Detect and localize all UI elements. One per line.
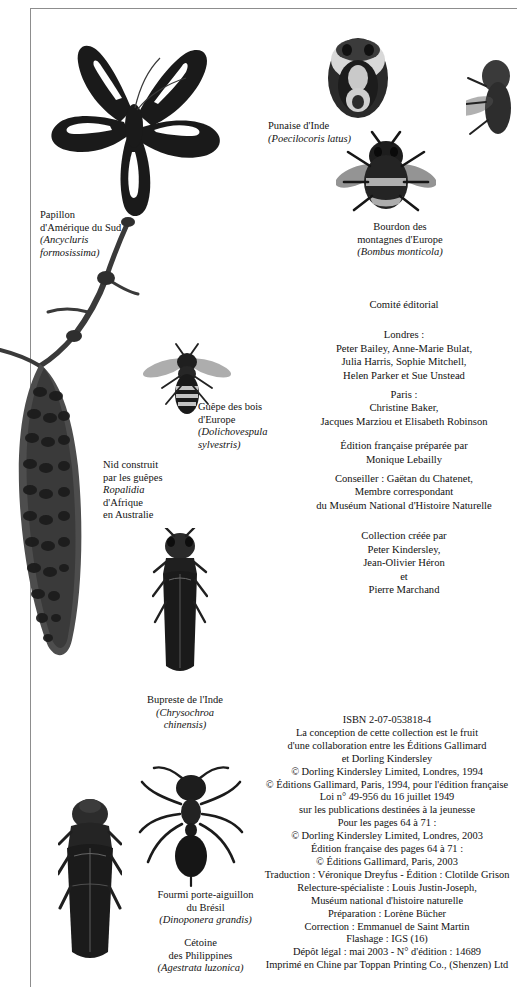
credits-london-label: Londres : (296, 328, 512, 341)
credits-paris-label: Paris : (296, 388, 512, 401)
colophon-line: La conception de cette collection est le… (258, 727, 516, 740)
colophon-line: Muséum national d'histoire naturelle (258, 895, 516, 908)
butterfly-photo (36, 22, 226, 222)
colophon-line: sur les publications destinées à la jeun… (258, 804, 516, 817)
credits-collection: Peter Kindersley, (296, 543, 512, 556)
colophon-line: ISBN 2-07-053818-4 (258, 714, 516, 727)
colophon-line: Préparation : Lorène Bücher (258, 908, 516, 921)
shield-bug-photo (322, 30, 394, 122)
colophon-line: Loi n° 49-956 du 16 juillet 1949 (258, 791, 516, 804)
credits-paris-name: Christine Baker, (296, 401, 512, 414)
colophon-line: © Éditions Gallimard, Paris, 1994, pour … (258, 779, 516, 792)
colophon-line: et Dorling Kindersley (258, 753, 516, 766)
colophon-line: d'une collaboration entre les Éditions G… (258, 740, 516, 753)
colophon-line: Dépôt légal : mai 2003 - N° d'édition : … (258, 946, 516, 959)
caption-jewel-beetle: Bupreste de l'Inde (Chrysochroa chinensi… (120, 694, 250, 732)
caption-flower-beetle: Cétoine des Philippines (Agestrata luzon… (133, 937, 268, 975)
bumblebee-photo (336, 130, 436, 216)
credits-french-edition: Monique Lebailly (296, 453, 512, 466)
colophon-block: ISBN 2-07-053818-4 La conception de cett… (258, 714, 516, 972)
credits-paris-name: Jacques Marziou et Elisabeth Robinson (296, 415, 512, 428)
book-copyright-page: Papillon d'Amérique du Sud (Ancycluris f… (0, 0, 517, 987)
credits-collection: Pierre Marchand (296, 583, 512, 596)
page-border-top (30, 8, 517, 9)
jewel-beetle-photo (152, 528, 208, 688)
wasp-nest-photo (0, 216, 150, 666)
credits-london-name: Helen Parker et Sue Unstead (296, 369, 512, 382)
caption-bumblebee: Bourdon des montagnes d'Europe (Bombus m… (330, 221, 470, 259)
credits-collection: Jean-Olivier Héron (296, 556, 512, 569)
credits-london-name: Peter Bailey, Anne-Marie Bulat, (296, 342, 512, 355)
cropped-insect-photo (466, 42, 517, 162)
credits-french-edition: Édition française préparée par (296, 439, 512, 452)
colophon-line: Relecture-spécialiste : Louis Justin-Jos… (258, 882, 516, 895)
colophon-line: Flashage : IGS (16) (258, 933, 516, 946)
colophon-line: Pour les pages 64 à 71 : (258, 817, 516, 830)
ant-photo (136, 764, 246, 888)
colophon-line: © Éditions Gallimard, Paris, 2003 (258, 856, 516, 869)
credits-advisor: du Muséum National d'Histoire Naturelle (296, 499, 512, 512)
caption-wasp: Guêpe des bois d'Europe (Dolichovespula … (198, 401, 308, 451)
colophon-line: © Dorling Kindersley Limited, Londres, 2… (258, 830, 516, 843)
credits-heading: Comité éditorial (296, 298, 512, 311)
credits-advisor: Membre correspondant (296, 485, 512, 498)
credits-advisor: Conseiller : Gaëtan du Chatenet, (296, 472, 512, 485)
caption-wasp-nest: Nid construit par les guêpes Ropalidia d… (103, 459, 208, 522)
colophon-line: Correction : Emmanuel de Saint Martin (258, 921, 516, 934)
credits-london-name: Julia Harris, Sophie Mitchell, (296, 355, 512, 368)
colophon-line: Édition française des pages 64 à 71 : (258, 843, 516, 856)
editorial-credits: Comité éditorial Londres : Peter Bailey,… (296, 298, 512, 596)
colophon-line: Traduction : Véronique Dreyfus - Édition… (258, 869, 516, 882)
flower-beetle-photo (58, 794, 122, 974)
credits-collection: Collection créée par (296, 529, 512, 542)
caption-ant: Fourmi porte-aiguillon du Brésil (Dinopo… (138, 889, 273, 927)
colophon-line: © Dorling Kindersley Limited, Londres, 1… (258, 766, 516, 779)
colophon-line: Imprimé en Chine par Toppan Printing Co.… (258, 959, 516, 972)
credits-collection: et (296, 570, 512, 583)
